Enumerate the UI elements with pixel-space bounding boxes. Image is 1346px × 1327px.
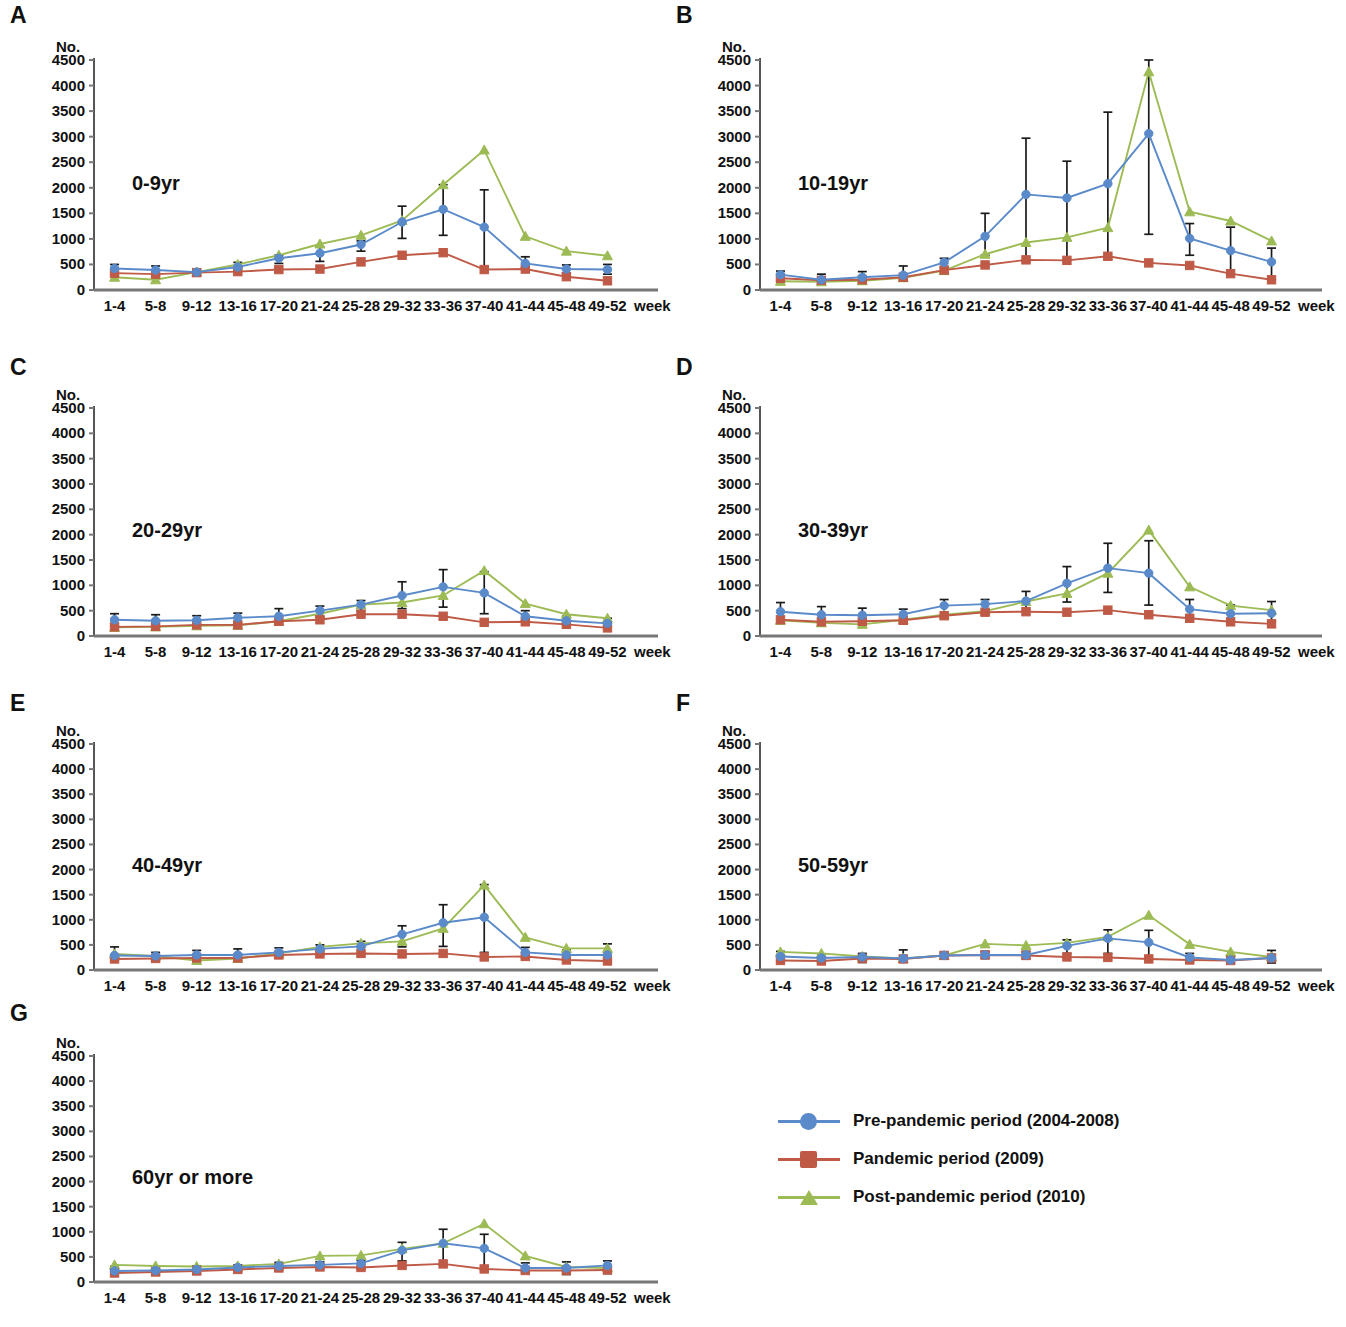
- data-point-marker: [357, 600, 365, 608]
- panel-letter-f: F: [676, 692, 690, 715]
- data-point-marker: [981, 600, 989, 608]
- data-point-marker: [439, 1239, 447, 1247]
- data-point-marker: [439, 1260, 447, 1268]
- data-point-marker: [1104, 252, 1112, 260]
- x-tick-label: 21-24: [966, 977, 1005, 994]
- x-tick-label: 49-52: [1252, 977, 1290, 994]
- data-point-marker: [1063, 953, 1071, 961]
- y-tick-label: 3000: [52, 475, 85, 492]
- y-tick-label: 3500: [718, 102, 751, 119]
- x-tick-label: 5-8: [811, 977, 833, 994]
- panel-letter-e: E: [10, 692, 25, 715]
- y-tick-label: 2000: [52, 179, 85, 196]
- legend-label: Pandemic period (2009): [853, 1149, 1044, 1169]
- legend-item-0: Pre-pandemic period (2004-2008): [778, 1102, 1119, 1140]
- data-point-marker: [776, 607, 784, 615]
- y-tick-label: 1500: [718, 204, 751, 221]
- x-axis-unit-label: week: [633, 977, 671, 994]
- x-tick-label: 1-4: [770, 643, 792, 660]
- y-tick-label: 2000: [718, 861, 751, 878]
- x-tick-label: 33-36: [1089, 297, 1127, 314]
- legend-swatch-square-icon: [778, 1148, 840, 1170]
- data-point-marker: [1185, 605, 1193, 613]
- y-tick-label: 3000: [52, 810, 85, 827]
- data-point-marker: [357, 240, 365, 248]
- y-tick-label: 2500: [718, 835, 751, 852]
- chart-svg-c: No.4500400035003000250020001500100050001…: [22, 382, 682, 680]
- data-point-marker: [1104, 934, 1112, 942]
- x-tick-label: 33-36: [1089, 643, 1127, 660]
- series-pandemic: [776, 252, 1275, 284]
- x-tick-label: 5-8: [811, 297, 833, 314]
- panel-letter-c: C: [10, 356, 27, 379]
- x-axis-unit-label: week: [1297, 643, 1335, 660]
- y-tick-label: 500: [726, 602, 751, 619]
- x-tick-label: 45-48: [547, 977, 585, 994]
- age-group-label: 10-19yr: [798, 172, 868, 194]
- data-point-marker: [603, 951, 611, 959]
- data-point-marker: [899, 610, 907, 618]
- x-tick-label: 25-28: [342, 643, 380, 660]
- data-point-marker: [479, 1219, 489, 1228]
- chart-legend: Pre-pandemic period (2004-2008)Pandemic …: [778, 1102, 1119, 1216]
- y-tick-label: 0: [77, 961, 85, 978]
- x-tick-label: 37-40: [465, 1289, 503, 1306]
- chart-svg-f: No.4500400035003000250020001500100050001…: [688, 718, 1346, 1014]
- x-tick-label: 13-16: [884, 643, 922, 660]
- data-point-marker: [899, 271, 907, 279]
- data-point-marker: [1185, 261, 1193, 269]
- legend-item-2: Post-pandemic period (2010): [778, 1178, 1119, 1216]
- data-point-marker: [398, 610, 406, 618]
- y-tick-label: 3500: [52, 102, 85, 119]
- y-tick-label: 1500: [52, 204, 85, 221]
- data-point-marker: [234, 1263, 242, 1271]
- chart-svg-e: No.4500400035003000250020001500100050001…: [22, 718, 682, 1014]
- data-point-marker: [357, 258, 365, 266]
- y-tick-label: 3000: [718, 128, 751, 145]
- x-tick-label: 49-52: [1252, 297, 1290, 314]
- data-point-marker: [1226, 610, 1234, 618]
- y-tick-label: 2500: [52, 153, 85, 170]
- panel-letter-d: D: [676, 356, 693, 379]
- y-tick-label: 2000: [52, 526, 85, 543]
- x-tick-label: 25-28: [1007, 297, 1045, 314]
- y-tick-label: 3500: [52, 785, 85, 802]
- data-point-marker: [151, 266, 159, 274]
- data-point-marker: [439, 248, 447, 256]
- chart-panel-f: No.4500400035003000250020001500100050001…: [688, 718, 1346, 1014]
- data-point-marker: [521, 612, 529, 620]
- y-tick-label: 0: [77, 627, 85, 644]
- data-point-marker: [357, 942, 365, 950]
- y-tick-label: 4000: [718, 760, 751, 777]
- x-tick-label: 1-4: [104, 297, 126, 314]
- chart-panel-a: No.4500400035003000250020001500100050001…: [22, 34, 682, 334]
- legend-label: Post-pandemic period (2010): [853, 1187, 1085, 1207]
- data-point-marker: [520, 231, 530, 240]
- data-point-marker: [603, 277, 611, 285]
- x-tick-label: 29-32: [1048, 297, 1086, 314]
- y-tick-label: 1000: [718, 230, 751, 247]
- age-group-label: 60yr or more: [132, 1166, 253, 1188]
- x-tick-label: 1-4: [104, 643, 126, 660]
- x-tick-label: 33-36: [424, 297, 462, 314]
- x-tick-label: 9-12: [847, 643, 877, 660]
- y-tick-label: 1500: [52, 886, 85, 903]
- x-tick-label: 17-20: [925, 297, 963, 314]
- data-point-marker: [438, 590, 448, 599]
- y-tick-label: 0: [743, 281, 751, 298]
- data-point-marker: [521, 259, 529, 267]
- x-tick-label: 45-48: [547, 1289, 585, 1306]
- x-tick-label: 37-40: [1130, 643, 1168, 660]
- data-point-marker: [1104, 564, 1112, 572]
- data-point-marker: [439, 612, 447, 620]
- data-point-marker: [316, 265, 324, 273]
- x-tick-label: 25-28: [342, 297, 380, 314]
- data-point-marker: [234, 951, 242, 959]
- x-tick-label: 13-16: [219, 977, 257, 994]
- data-point-marker: [398, 218, 406, 226]
- x-tick-label: 5-8: [145, 297, 167, 314]
- x-tick-label: 21-24: [301, 297, 340, 314]
- data-point-marker: [110, 951, 118, 959]
- data-point-marker: [521, 948, 529, 956]
- data-point-marker: [562, 273, 570, 281]
